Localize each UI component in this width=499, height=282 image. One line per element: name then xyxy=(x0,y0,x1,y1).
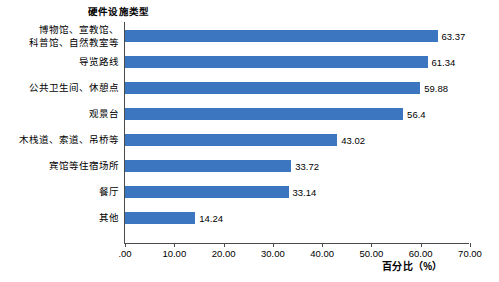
x-axis-tick-label: 10.00 xyxy=(162,248,186,259)
bar-value-label: 33.14 xyxy=(289,187,317,198)
bar-value-label: 61.34 xyxy=(428,57,456,68)
x-axis-tick xyxy=(470,243,471,247)
category-label: 博物馆、宣教馆、 科普馆、自然教室等 xyxy=(0,24,119,49)
x-axis-title: 百分比（%） xyxy=(382,258,443,273)
x-axis-tick xyxy=(125,243,126,247)
bar-row: 公共卫生间、休憩点 59.88 xyxy=(125,76,469,101)
x-axis-tick-label: 70.00 xyxy=(458,248,482,259)
x-axis-tick xyxy=(371,243,372,247)
bar-row: 餐厅 33.14 xyxy=(125,180,469,205)
bar xyxy=(125,134,337,146)
category-label: 餐厅 xyxy=(0,186,119,199)
x-axis-tick xyxy=(224,243,225,247)
bar-row: 导览路线 61.34 xyxy=(125,50,469,75)
bar-value-label: 43.02 xyxy=(337,135,365,146)
bar xyxy=(125,108,403,120)
bar-chart: 硬件设施类型 博物馆、宣教馆、 科普馆、自然教室等 63.37 导览路线 61.… xyxy=(0,0,499,282)
bar-row: 其他 14.24 xyxy=(125,206,469,231)
y-axis-title: 硬件设施类型 xyxy=(88,4,149,18)
x-axis-tick xyxy=(421,243,422,247)
bar-value-label: 33.72 xyxy=(291,161,319,172)
bar-value-label: 63.37 xyxy=(438,31,466,42)
x-axis-tick-label: 50.00 xyxy=(360,248,384,259)
category-label: 宾馆等住宿场所 xyxy=(0,160,119,173)
x-axis-tick xyxy=(322,243,323,247)
x-axis-tick-label: 40.00 xyxy=(310,248,334,259)
x-axis-tick-label: 30.00 xyxy=(261,248,285,259)
bar-row: 木栈道、索道、吊桥等 43.02 xyxy=(125,128,469,153)
plot-area: 博物馆、宣教馆、 科普馆、自然教室等 63.37 导览路线 61.34 公共卫生… xyxy=(124,22,469,244)
category-label: 观景台 xyxy=(0,108,119,121)
bar-row: 博物馆、宣教馆、 科普馆、自然教室等 63.37 xyxy=(125,24,469,49)
category-label: 其他 xyxy=(0,212,119,225)
bar xyxy=(125,186,289,198)
bar xyxy=(125,212,195,224)
category-label: 木栈道、索道、吊桥等 xyxy=(0,134,119,147)
bar xyxy=(125,30,438,42)
bar xyxy=(125,82,420,94)
category-label: 导览路线 xyxy=(0,56,119,69)
bar-row: 宾馆等住宿场所 33.72 xyxy=(125,154,469,179)
bar-value-label: 56.4 xyxy=(403,109,426,120)
bar-value-label: 59.88 xyxy=(420,83,448,94)
x-axis-tick xyxy=(273,243,274,247)
bar-value-label: 14.24 xyxy=(195,213,223,224)
bar xyxy=(125,160,291,172)
bars-container: 博物馆、宣教馆、 科普馆、自然教室等 63.37 导览路线 61.34 公共卫生… xyxy=(125,22,469,243)
bar xyxy=(125,56,428,68)
x-axis-tick-label: 20.00 xyxy=(212,248,236,259)
bar-row: 观景台 56.4 xyxy=(125,102,469,127)
x-axis-tick-label: .00 xyxy=(118,248,131,259)
x-axis-tick xyxy=(174,243,175,247)
category-label: 公共卫生间、休憩点 xyxy=(0,82,119,95)
